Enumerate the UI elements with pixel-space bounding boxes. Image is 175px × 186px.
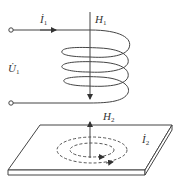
label-current-i1: İ1 <box>39 13 48 27</box>
terminal-bottom-icon <box>9 101 13 105</box>
label-field-h2: H2 <box>102 110 115 124</box>
label-voltage-u1: U̇1 <box>8 62 20 76</box>
input-wire-bottom <box>9 101 90 105</box>
eddy-current-diagram: İ1 U̇1 H1 H2 İ2 <box>0 0 175 186</box>
terminal-top-icon <box>9 28 13 32</box>
coil <box>62 30 130 103</box>
input-wire-top <box>9 28 90 32</box>
label-field-h1: H1 <box>94 13 107 27</box>
